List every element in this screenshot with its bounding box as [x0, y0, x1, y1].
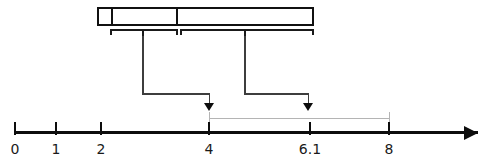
number-line-arrowhead-icon	[464, 126, 478, 140]
brace-left-end-start	[110, 29, 112, 35]
axis-label-1: 1	[52, 142, 61, 156]
axis-tick-8	[388, 122, 390, 135]
brace-left-center-tick	[142, 29, 144, 36]
axis-label-4: 4	[205, 142, 214, 156]
brace-right-center-tick	[244, 29, 246, 36]
pointer-to-4-horizontal	[142, 93, 210, 95]
axis-label-6.1: 6.1	[299, 142, 321, 156]
pointer-to-6.1-arrowhead	[303, 103, 313, 111]
number-line-axis	[14, 131, 478, 134]
brace-right-end-start	[180, 29, 182, 35]
brace-right-end-finish	[312, 29, 314, 35]
axis-label-2: 2	[97, 142, 106, 156]
axis-tick-6.1	[309, 122, 311, 135]
brace-right-bar	[180, 29, 314, 31]
bar-segment-left	[111, 7, 178, 26]
brace-right	[180, 29, 314, 38]
axis-label-8: 8	[385, 142, 394, 156]
bar-segment-right	[176, 7, 314, 26]
axis-tick-1	[55, 122, 57, 135]
axis-label-0: 0	[11, 142, 20, 156]
brace-left	[110, 29, 178, 38]
span-4-to-8-line	[209, 118, 389, 119]
diagram-canvas: 0 1 2 4 6.1 8	[0, 0, 489, 166]
axis-tick-2	[100, 122, 102, 135]
pointer-to-4-arrowhead	[204, 103, 214, 111]
brace-left-end-finish	[176, 29, 178, 35]
pointer-to-4-vertical	[142, 36, 144, 94]
axis-tick-0	[14, 122, 16, 135]
axis-tick-4	[208, 122, 210, 135]
brace-left-bar	[110, 29, 178, 31]
pointer-to-6.1-horizontal	[244, 93, 309, 95]
pointer-to-6.1-vertical	[244, 36, 246, 94]
